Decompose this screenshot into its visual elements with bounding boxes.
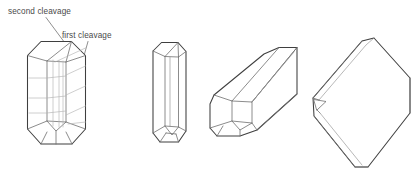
crystal-2-outline xyxy=(153,43,186,143)
figure-canvas: second cleavage first cleavage xyxy=(0,0,420,173)
crystal-1-outline xyxy=(28,42,86,145)
label-second-cleavage: second cleavage xyxy=(8,7,71,16)
crystal-3-outline xyxy=(210,48,297,137)
crystal-1-prismatic-with-cleavage xyxy=(28,42,86,145)
label-first-cleavage: first cleavage xyxy=(62,31,112,40)
crystal-4-outline xyxy=(313,38,410,167)
crystal-3-tilted-prism xyxy=(210,48,297,137)
crystal-4-tabular-rhomb xyxy=(313,38,410,167)
crystal-cleavage-figure: second cleavage first cleavage xyxy=(0,0,420,173)
crystal-2-slender-prism xyxy=(153,43,186,143)
crystal-2-top-ridge xyxy=(178,43,179,58)
